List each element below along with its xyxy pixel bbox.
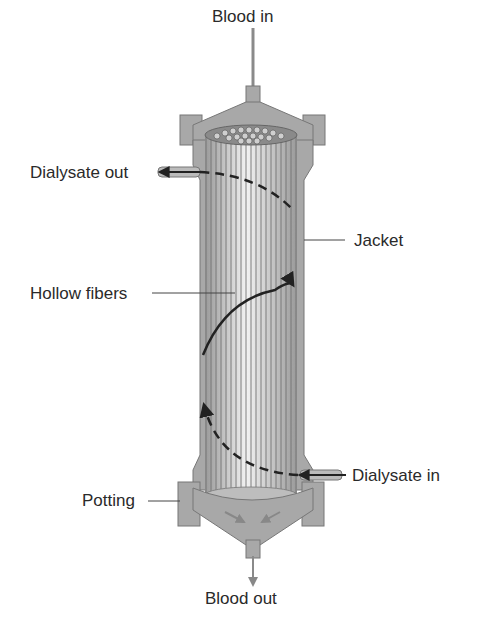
label-potting: Potting [82, 492, 135, 509]
label-dialysate-out: Dialysate out [30, 164, 128, 181]
label-hollow-fibers: Hollow fibers [30, 285, 127, 302]
label-jacket: Jacket [354, 232, 403, 249]
dialysate-out-port [158, 167, 200, 177]
dialysate-in-port [300, 470, 346, 480]
dialyzer-diagram: Blood in Dialysate out Jacket Hollow fib… [0, 0, 482, 627]
label-dialysate-in: Dialysate in [352, 467, 440, 484]
blood-inlet [246, 28, 260, 106]
label-blood-in: Blood in [212, 8, 273, 25]
dialyzer-illustration [0, 0, 482, 627]
label-blood-out: Blood out [205, 590, 277, 607]
